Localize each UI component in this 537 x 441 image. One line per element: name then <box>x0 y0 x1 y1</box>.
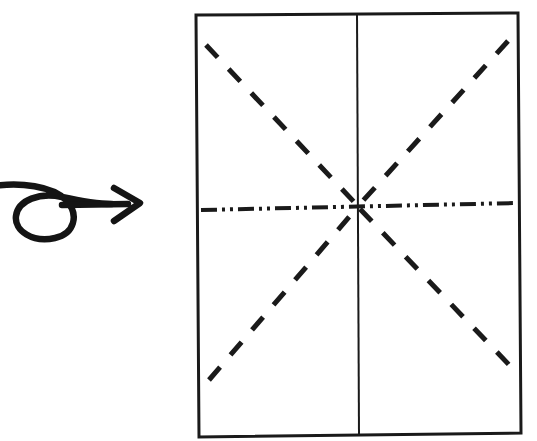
origami-fold-diagram <box>0 0 537 441</box>
diagram-canvas <box>0 0 537 441</box>
arrow-shaft <box>62 204 128 205</box>
